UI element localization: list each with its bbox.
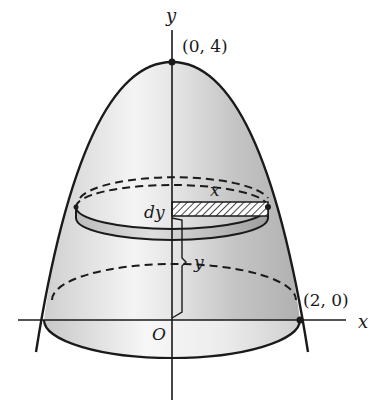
point-disk-left xyxy=(74,205,79,210)
solid-of-revolution-diagram: y (0, 4) x dy y (2, 0) x O xyxy=(0,0,381,402)
origin-label: O xyxy=(152,324,166,344)
height-label: y xyxy=(193,252,204,272)
y-axis-label: y xyxy=(165,5,177,26)
hatched-slice-rectangle xyxy=(172,202,268,216)
radius-label: x xyxy=(210,180,220,200)
thickness-label: dy xyxy=(144,202,165,222)
point-label-0-4: (0, 4) xyxy=(182,36,228,56)
point-0-4 xyxy=(169,59,176,66)
x-axis-label: x xyxy=(358,311,368,332)
point-2-0 xyxy=(297,317,304,324)
point-disk-edge xyxy=(265,204,271,210)
point-label-2-0: (2, 0) xyxy=(303,290,349,310)
